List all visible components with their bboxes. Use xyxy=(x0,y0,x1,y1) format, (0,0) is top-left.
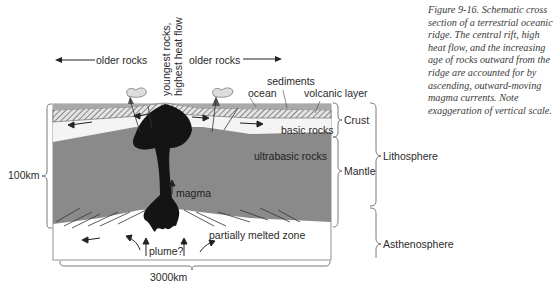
ultrabasic-rocks-label: ultrabasic rocks xyxy=(254,151,327,162)
youngest-rocks-label: youngest rocks, highest heat flow xyxy=(160,17,184,96)
crust-bracket xyxy=(333,103,342,137)
older-rocks-right-label: older rocks xyxy=(189,55,240,66)
sediments-label: sediments xyxy=(267,76,315,87)
horizontal-scale-label: 3000km xyxy=(150,272,187,283)
lithosphere-label: Lithosphere xyxy=(383,151,438,162)
youngest-rocks-line1: youngest rocks, xyxy=(160,17,172,96)
lithosphere-bracket xyxy=(370,103,381,206)
older-rocks-right-arrow xyxy=(243,56,282,62)
volcanic-layer-label: volcanic layer xyxy=(304,88,368,99)
horizontal-scale-bracket xyxy=(60,261,330,270)
magma-label: magma xyxy=(176,188,211,199)
basic-rocks-label: basic rocks xyxy=(281,125,334,136)
asthenosphere-label: Asthenosphere xyxy=(383,239,454,250)
vertical-scale-label: 100km xyxy=(8,170,40,181)
ocean-label: ocean xyxy=(248,88,277,99)
asthenosphere-bracket xyxy=(370,208,381,258)
mantle-bracket xyxy=(333,137,342,227)
plume-label: plume? xyxy=(149,246,183,257)
mantle-label: Mantle xyxy=(344,166,376,177)
volcano-smoke-right xyxy=(212,88,233,106)
crust-label: Crust xyxy=(344,115,369,126)
volcano-smoke-left xyxy=(127,88,147,104)
partially-melted-zone-label: partially melted zone xyxy=(209,230,305,241)
youngest-rocks-line2: highest heat flow xyxy=(172,17,184,96)
vertical-scale-bracket xyxy=(42,104,52,228)
older-rocks-left-label: older rocks xyxy=(96,55,147,66)
figure-caption: Figure 9-16. Schematic cross section of … xyxy=(428,4,555,117)
older-rocks-left-arrow xyxy=(55,57,95,63)
ultrabasic-mantle-layer xyxy=(53,124,331,224)
